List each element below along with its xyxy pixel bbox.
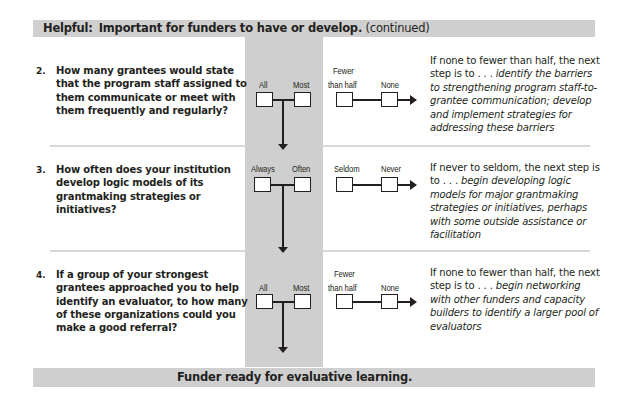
connector-line bbox=[282, 99, 284, 145]
question-text: How many grantees would state that the p… bbox=[56, 64, 251, 117]
option-label: Most bbox=[293, 283, 309, 293]
checkbox-all[interactable] bbox=[256, 294, 273, 309]
checkbox-none[interactable] bbox=[381, 92, 398, 107]
option-label: Fewer bbox=[334, 269, 355, 279]
arrow-down-icon bbox=[278, 347, 288, 353]
checkbox-most[interactable] bbox=[294, 294, 311, 309]
option-label: Always bbox=[251, 164, 275, 174]
question-number: 3. bbox=[36, 163, 46, 177]
question-text: How often does your institution develop … bbox=[56, 163, 251, 216]
flow-column bbox=[245, 37, 323, 367]
option-label: Fewer bbox=[333, 66, 354, 76]
option-label: Never bbox=[381, 164, 401, 174]
connector-line bbox=[353, 99, 381, 101]
connector-line bbox=[273, 99, 294, 101]
checkbox-fewer-than-half[interactable] bbox=[336, 92, 353, 107]
checkbox-never[interactable] bbox=[381, 177, 398, 192]
arrow-right-icon bbox=[410, 95, 417, 105]
option-label: Often bbox=[292, 164, 310, 174]
arrow-right-icon bbox=[410, 297, 417, 307]
answer-2: If none to fewer than half, the next ste… bbox=[430, 54, 600, 134]
option-label: All bbox=[259, 80, 267, 90]
answer-3: If never to seldom, the next step is to … bbox=[430, 161, 600, 241]
connector-line bbox=[282, 184, 284, 248]
arrow-right-icon bbox=[410, 180, 417, 190]
result-banner-text: Funder ready for evaluative learning. bbox=[177, 368, 412, 387]
header-suffix: (continued) bbox=[366, 21, 430, 35]
row-divider bbox=[50, 145, 245, 147]
checkbox-fewer-than-half[interactable] bbox=[336, 294, 353, 309]
checkbox-most[interactable] bbox=[294, 92, 311, 107]
option-label: Most bbox=[293, 80, 309, 90]
answer-4: If none to fewer than half, the next ste… bbox=[430, 266, 600, 333]
row-divider bbox=[323, 145, 590, 147]
option-label: None bbox=[381, 80, 399, 90]
checkbox-all[interactable] bbox=[256, 92, 273, 107]
checkbox-always[interactable] bbox=[254, 177, 271, 192]
connector-line bbox=[353, 301, 381, 303]
option-label: than half bbox=[328, 283, 357, 293]
question-text: If a group of your strongest grantees ap… bbox=[56, 268, 251, 334]
checkbox-none[interactable] bbox=[381, 294, 398, 309]
option-label: than half bbox=[328, 80, 357, 90]
result-banner: Funder ready for evaluative learning. bbox=[33, 368, 595, 387]
option-label: Seldom bbox=[334, 164, 359, 174]
header-title: Important for funders to have or develop… bbox=[99, 21, 362, 35]
option-label: None bbox=[381, 283, 399, 293]
connector-line bbox=[353, 184, 381, 186]
question-number: 2. bbox=[36, 64, 46, 78]
arrow-down-icon bbox=[278, 144, 288, 150]
row-divider bbox=[323, 250, 590, 252]
connector-line bbox=[282, 301, 284, 348]
section-header-text: Helpful:Important for funders to have or… bbox=[43, 20, 430, 37]
option-label: All bbox=[259, 283, 267, 293]
arrow-down-icon bbox=[278, 247, 288, 253]
checkbox-often[interactable] bbox=[294, 177, 311, 192]
row-divider bbox=[50, 250, 245, 252]
header-prefix: Helpful: bbox=[43, 21, 93, 35]
connector-line bbox=[273, 301, 294, 303]
question-number: 4. bbox=[36, 268, 46, 282]
checkbox-seldom[interactable] bbox=[336, 177, 353, 192]
section-header: Helpful:Important for funders to have or… bbox=[33, 20, 595, 37]
